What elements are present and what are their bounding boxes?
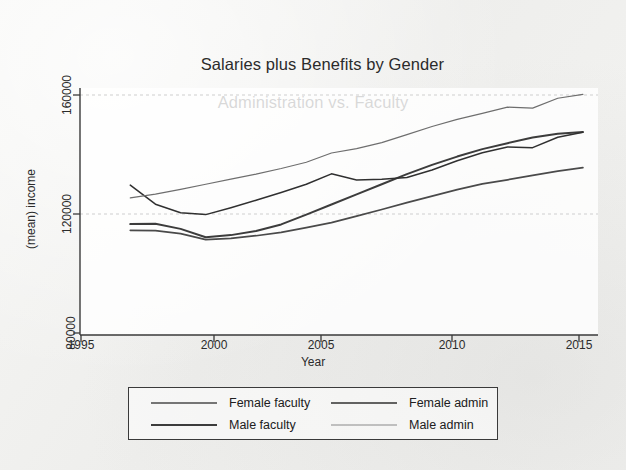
chart-legend: Female faculty Male faculty Female admin… [128,387,498,440]
legend-label-male-admin: Male admin [409,418,474,432]
x-axis-ticks [81,335,579,342]
chart-figure: Salaries plus Benefits by Gender Adminis… [0,0,626,470]
legend-label-male-faculty: Male faculty [229,418,296,432]
legend-label-female-faculty: Female faculty [229,396,310,410]
legend-label-female-admin: Female admin [409,396,488,410]
plot-panel-background [80,88,598,335]
y-axis-ticks [73,95,80,333]
